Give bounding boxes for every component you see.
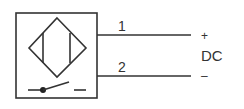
terminal-2-label: 2 [118,59,126,75]
negative-polarity-label: – [201,69,208,83]
proximity-sensor-icon [29,18,86,77]
terminal-1-label: 1 [118,18,126,34]
sensor-wiring-diagram: 1 2 + DC – [0,0,244,109]
dc-supply-label: DC [201,47,223,64]
normally-open-switch-icon [28,82,86,93]
positive-polarity-label: + [201,29,208,43]
